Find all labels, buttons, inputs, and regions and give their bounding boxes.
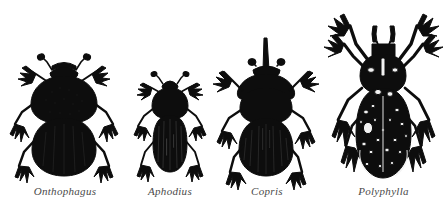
label-copris: Copris	[208, 186, 326, 197]
label-aphodius: Aphodius	[124, 186, 216, 197]
copris-horn	[263, 38, 269, 70]
copris-illustration	[213, 38, 319, 190]
onthophagus-illustration	[10, 53, 118, 183]
specimen-copris	[208, 0, 326, 209]
polyphylla-illustration	[324, 14, 443, 178]
polyphylla-right-claw	[417, 14, 439, 36]
polyphylla-left-claw	[328, 14, 350, 36]
specimen-aphodius	[124, 0, 216, 209]
label-polyphylla: Polyphylla	[320, 186, 447, 197]
label-onthophagus: Onthophagus	[0, 186, 130, 197]
specimen-polyphylla	[320, 0, 447, 209]
beetle-plate: Onthophagus Aphodius Copris Polyphylla	[0, 0, 447, 209]
specimen-onthophagus	[0, 0, 130, 209]
aphodius-illustration	[134, 71, 206, 182]
